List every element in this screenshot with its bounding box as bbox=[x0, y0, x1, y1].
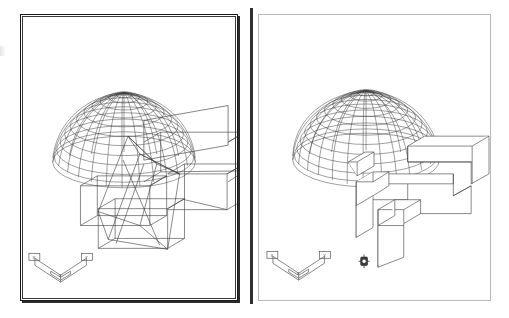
screenshot-stage: X Y Z bbox=[0, 0, 509, 318]
hidden-line-canvas[interactable]: X Y Z bbox=[259, 15, 490, 300]
ucs-axis-icon[interactable]: X Y Z bbox=[29, 253, 92, 282]
wireframe-canvas[interactable]: X Y Z bbox=[21, 15, 237, 300]
dome-wireframe bbox=[53, 92, 196, 188]
dome-wireframe bbox=[293, 90, 440, 187]
ucs-label-z: Z bbox=[297, 271, 300, 276]
hidden-line-viewport[interactable]: X Y Z bbox=[258, 14, 491, 301]
page-edge-artifact bbox=[0, 46, 6, 56]
viewport-divider bbox=[250, 8, 253, 304]
ucs-label-z: Z bbox=[59, 273, 62, 278]
ucs-label-y: Y bbox=[323, 253, 326, 258]
ucs-label-y: Y bbox=[85, 255, 88, 260]
point-marker-icon[interactable] bbox=[359, 254, 370, 268]
ucs-label-x: X bbox=[32, 255, 35, 260]
ucs-label-x: X bbox=[270, 253, 273, 258]
wireframe-viewport[interactable]: X Y Z bbox=[20, 14, 238, 301]
ucs-axis-icon[interactable]: X Y Z bbox=[267, 251, 330, 280]
wedge-solid-hidden bbox=[348, 152, 420, 267]
